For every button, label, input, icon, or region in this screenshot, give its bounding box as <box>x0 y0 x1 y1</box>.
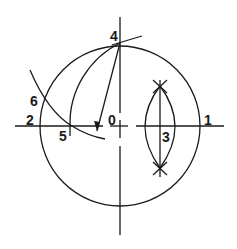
label-point-3: 3 <box>162 130 170 144</box>
construction-diagram: 0 1 2 3 4 5 6 <box>0 0 237 249</box>
diagram-canvas <box>0 0 237 249</box>
label-point-6: 6 <box>30 94 38 108</box>
label-point-2: 2 <box>26 113 34 127</box>
bisector-arc-left <box>145 86 160 168</box>
label-point-5: 5 <box>59 129 67 143</box>
label-point-4: 4 <box>110 29 118 43</box>
arc-through-6-and-5 <box>30 70 105 139</box>
label-point-0: 0 <box>108 113 116 127</box>
bisector-arc-right <box>160 86 175 168</box>
label-point-1: 1 <box>204 113 212 127</box>
